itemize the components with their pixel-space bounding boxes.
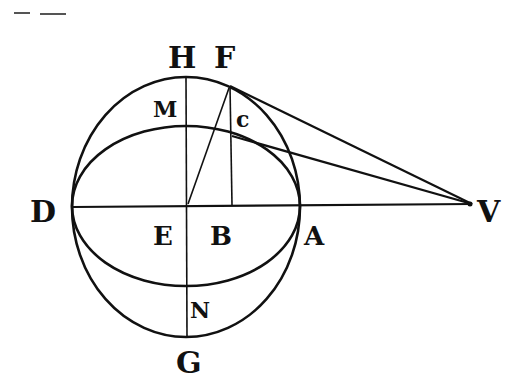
geometry-diagram: H F M c D E B A V N G xyxy=(0,0,531,391)
label-B: B xyxy=(210,221,232,251)
label-E: E xyxy=(153,221,173,251)
point-V-marker xyxy=(468,202,473,207)
label-G: G xyxy=(176,345,202,380)
label-N: N xyxy=(190,297,210,323)
label-H: H xyxy=(168,40,196,75)
label-c: c xyxy=(236,106,249,132)
line-HG xyxy=(186,77,187,337)
label-V: V xyxy=(476,194,501,229)
label-D: D xyxy=(30,194,56,229)
line-DV xyxy=(73,204,472,207)
label-A: A xyxy=(303,221,325,251)
line-FB xyxy=(230,86,232,205)
line-EF xyxy=(188,88,229,204)
label-M: M xyxy=(153,96,177,122)
label-F: F xyxy=(214,40,235,75)
